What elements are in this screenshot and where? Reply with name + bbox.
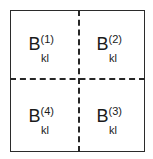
label-subscript: kl — [41, 53, 49, 64]
label-superscript: (1) — [41, 34, 54, 45]
label-base: B — [29, 106, 41, 126]
label-subscript: kl — [109, 125, 117, 136]
quadrant-top-right-label: B(2)kl — [97, 35, 128, 53]
label-subscript: kl — [109, 53, 117, 64]
label-subscript: kl — [41, 125, 49, 136]
label-base: B — [97, 34, 109, 54]
label-superscript: (4) — [41, 106, 54, 117]
quadrant-bottom-right: B(3)kl — [79, 79, 145, 152]
quadrant-top-left: B(1)kl — [10, 10, 78, 78]
quadrant-top-left-label: B(1)kl — [29, 35, 60, 53]
quadrant-top-right: B(2)kl — [79, 10, 145, 78]
quadrant-bottom-right-label: B(3)kl — [97, 107, 128, 125]
quadrant-diagram: B(1)kl B(2)kl B(4)kl B(3)kl — [0, 0, 153, 159]
quadrant-bottom-left-label: B(4)kl — [29, 107, 60, 125]
label-base: B — [97, 106, 109, 126]
label-superscript: (3) — [109, 106, 122, 117]
quadrant-bottom-left: B(4)kl — [10, 79, 78, 152]
label-base: B — [29, 34, 41, 54]
label-superscript: (2) — [109, 34, 122, 45]
